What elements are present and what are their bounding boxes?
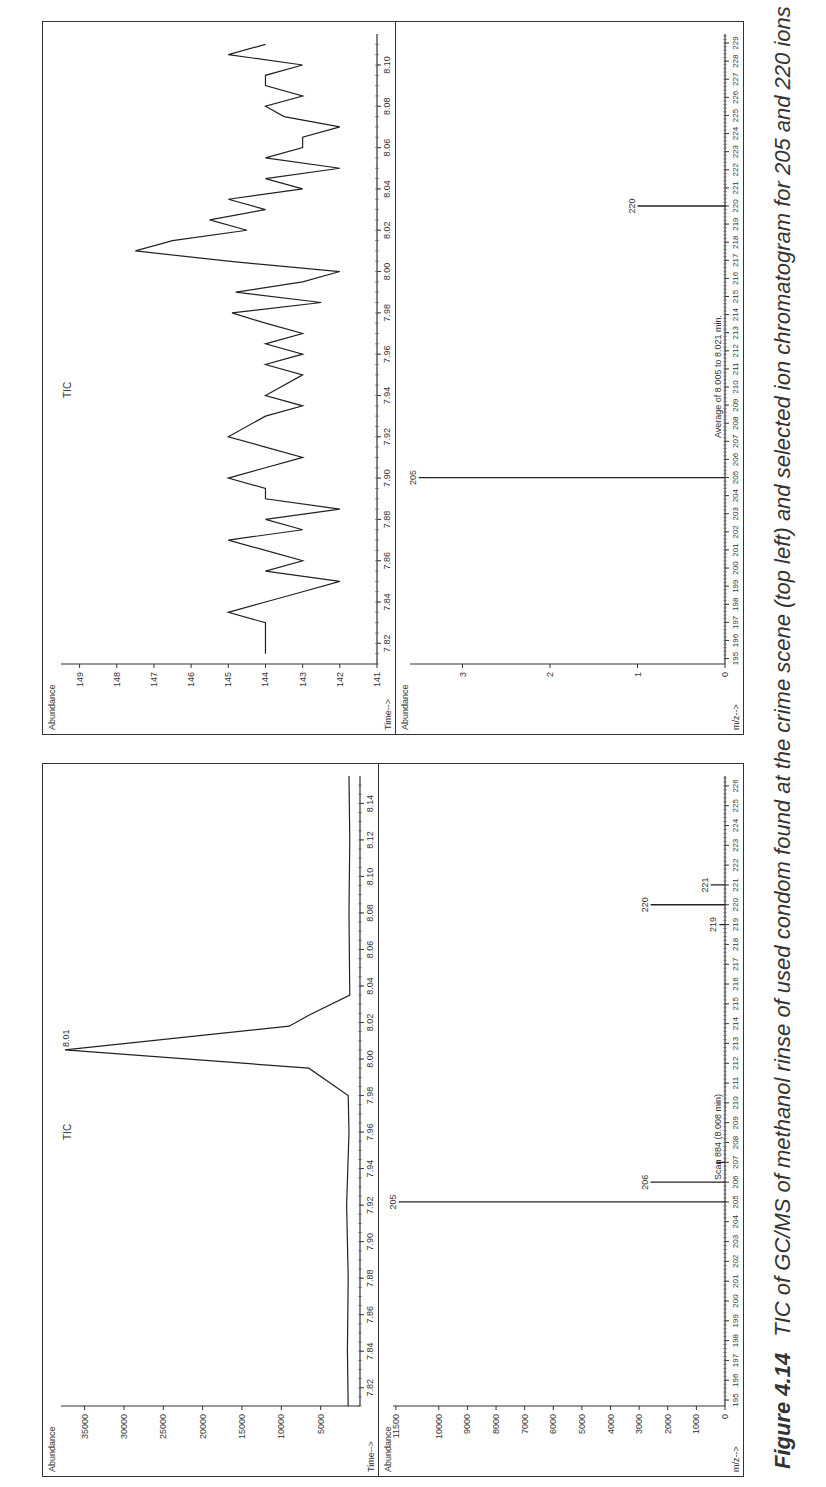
y-tick-label: 4000 bbox=[606, 1414, 616, 1434]
y-tick-label: 145 bbox=[223, 672, 233, 687]
x-tick-label: 205 bbox=[731, 1195, 740, 1209]
x-tick-label: 221 bbox=[731, 878, 740, 892]
y-tick-label: 144 bbox=[260, 672, 270, 687]
x-tick-label: 7.88 bbox=[365, 1269, 375, 1287]
y-tick-label: 146 bbox=[186, 672, 196, 687]
x-tick-label: 223 bbox=[731, 144, 740, 158]
y-tick-label: 5000 bbox=[577, 1414, 587, 1434]
y-tick-label: 35000 bbox=[80, 1414, 90, 1439]
x-tick-label: 8.00 bbox=[365, 1050, 375, 1068]
right-spectrum-panel: Abundancem/z-->0123195196197198199200201… bbox=[396, 22, 743, 734]
x-tick-label: 7.98 bbox=[382, 304, 392, 322]
x-tick-label: 7.86 bbox=[365, 1306, 375, 1324]
y-tick-label: 2 bbox=[545, 672, 555, 677]
y-tick-label: 143 bbox=[298, 672, 308, 687]
y-tick-label: 15000 bbox=[237, 1414, 247, 1439]
x-tick-label: 224 bbox=[731, 126, 740, 140]
figure-page: AbundanceTime-->500010000150002000025000… bbox=[0, 0, 826, 1487]
left-tic-chart: AbundanceTime-->500010000150002000025000… bbox=[43, 764, 378, 1476]
x-tick-label: 204 bbox=[731, 488, 740, 502]
x-tick-label: 8.02 bbox=[365, 1014, 375, 1032]
ion-peak-label: 221 bbox=[700, 877, 710, 892]
x-tick-label: 226 bbox=[731, 779, 740, 793]
chart-title: TIC bbox=[62, 382, 73, 398]
x-tick-label: 202 bbox=[731, 1254, 740, 1268]
y-tick-label: 1000 bbox=[691, 1414, 701, 1434]
y-tick-label: 25000 bbox=[158, 1414, 168, 1439]
x-tick-label: 213 bbox=[731, 325, 740, 339]
x-tick-label: 203 bbox=[731, 507, 740, 521]
x-tick-label: 7.82 bbox=[365, 1379, 375, 1397]
x-tick-label: 8.04 bbox=[382, 180, 392, 198]
x-tick-label: 226 bbox=[731, 90, 740, 104]
x-tick-label: 206 bbox=[731, 452, 740, 466]
x-tick-label: 220 bbox=[731, 898, 740, 912]
ion-peak-label: 220 bbox=[640, 897, 650, 912]
figure-caption: Figure 4.14 TIC of GC/MS of methanol rin… bbox=[770, 9, 796, 1469]
x-tick-label: 222 bbox=[731, 858, 740, 872]
spectrum-title: Scan 884 (8.008 min) bbox=[713, 1094, 723, 1180]
x-tick-label: 214 bbox=[731, 1016, 740, 1030]
y-tick-label: 10000 bbox=[276, 1414, 286, 1439]
y-tick-label: 30000 bbox=[119, 1414, 129, 1439]
x-tick-label: 223 bbox=[731, 838, 740, 852]
x-tick-label: 195 bbox=[731, 651, 740, 665]
x-tick-label: 224 bbox=[731, 818, 740, 832]
ion-peak-label: 219 bbox=[708, 917, 718, 932]
x-tick-label: 227 bbox=[731, 72, 740, 86]
x-tick-label: 206 bbox=[731, 1175, 740, 1189]
x-tick-label: 196 bbox=[731, 1373, 740, 1387]
x-tick-label: 8.02 bbox=[382, 221, 392, 239]
x-tick-label: 212 bbox=[731, 344, 740, 358]
x-tick-label: 7.94 bbox=[382, 387, 392, 405]
left-figure: AbundanceTime-->500010000150002000025000… bbox=[42, 763, 744, 1477]
x-tick-label: 8.14 bbox=[365, 795, 375, 813]
x-tick-label: 213 bbox=[731, 1036, 740, 1050]
right-figure: AbundanceTime-->141142143144145146147148… bbox=[42, 21, 744, 735]
x-tick-label: 198 bbox=[731, 1333, 740, 1347]
x-tick-label: 7.88 bbox=[382, 511, 392, 529]
x-tick-label: 7.90 bbox=[382, 469, 392, 487]
right-tic-chart: AbundanceTime-->141142143144145146147148… bbox=[43, 22, 395, 734]
y-tick-label: 9000 bbox=[462, 1414, 472, 1434]
x-tick-label: 8.12 bbox=[365, 831, 375, 849]
x-axis-label: m/z--> bbox=[731, 1446, 741, 1472]
x-tick-label: 201 bbox=[731, 543, 740, 557]
x-tick-label: 207 bbox=[731, 434, 740, 448]
x-tick-label: 197 bbox=[731, 615, 740, 629]
x-tick-label: 7.84 bbox=[382, 593, 392, 611]
y-tick-label: 0 bbox=[720, 1414, 730, 1419]
ion-peak-label: 220 bbox=[627, 198, 637, 213]
x-tick-label: 222 bbox=[731, 163, 740, 177]
x-tick-label: 211 bbox=[731, 1076, 740, 1089]
y-tick-label: 5000 bbox=[316, 1414, 326, 1434]
caption-text: TIC of GC/MS of methanol rinse of used c… bbox=[770, 6, 795, 1336]
y-axis-label: Abundance bbox=[47, 1426, 57, 1472]
y-tick-label: 7000 bbox=[520, 1414, 530, 1434]
x-tick-label: 225 bbox=[731, 798, 740, 812]
x-axis-label: Time--> bbox=[366, 1441, 376, 1472]
figure-label: Figure 4.14 bbox=[770, 1353, 795, 1469]
x-tick-label: 217 bbox=[731, 957, 740, 971]
x-tick-label: 220 bbox=[731, 199, 740, 213]
x-tick-label: 7.96 bbox=[382, 345, 392, 363]
x-tick-label: 217 bbox=[731, 253, 740, 267]
x-tick-label: 200 bbox=[731, 1294, 740, 1308]
right-spectrum-chart: Abundancem/z-->0123195196197198199200201… bbox=[396, 22, 743, 734]
y-tick-label: 148 bbox=[112, 672, 122, 687]
y-tick-label: 3 bbox=[458, 672, 468, 677]
x-tick-label: 204 bbox=[731, 1215, 740, 1229]
x-tick-label: 229 bbox=[731, 36, 740, 50]
x-axis-label: m/z--> bbox=[731, 704, 741, 730]
x-tick-label: 219 bbox=[731, 217, 740, 231]
x-tick-label: 8.04 bbox=[365, 977, 375, 995]
x-tick-label: 212 bbox=[731, 1056, 740, 1070]
ion-peak-label: 206 bbox=[640, 1175, 650, 1190]
x-tick-label: 198 bbox=[731, 597, 740, 611]
x-tick-label: 7.90 bbox=[365, 1233, 375, 1251]
x-tick-label: 203 bbox=[731, 1234, 740, 1248]
y-tick-label: 142 bbox=[335, 672, 345, 687]
chart-title: TIC bbox=[62, 1124, 73, 1140]
x-tick-label: 207 bbox=[731, 1155, 740, 1169]
x-tick-label: 221 bbox=[731, 181, 740, 195]
